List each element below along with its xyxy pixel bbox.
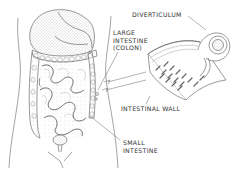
label-large-intestine-line2: INTESTINE <box>113 37 148 45</box>
label-small-intestine: SMALL INTESTINE <box>123 139 158 154</box>
small-intestine-shading <box>40 63 88 141</box>
label-small-intestine-line1: SMALL <box>123 139 158 147</box>
label-diverticulum: DIVERTICULUM <box>132 11 182 19</box>
bladder <box>53 135 67 152</box>
label-large-intestine-line3: (COLON) <box>113 44 148 52</box>
label-large-intestine-line1: LARGE <box>113 29 148 37</box>
label-large-intestine: LARGE INTESTINE (COLON) <box>113 29 148 52</box>
label-small-intestine-line2: INTESTINE <box>123 147 158 155</box>
liver-stomach <box>30 10 95 60</box>
intestinal-wall-cross-section <box>148 33 230 100</box>
label-intestinal-wall: INTESTINAL WALL <box>121 105 180 113</box>
anatomy-illustration <box>0 0 242 180</box>
